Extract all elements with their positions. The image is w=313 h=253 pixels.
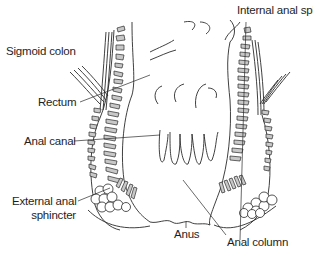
- label-sigmoid-colon: Sigmoid colon: [6, 45, 76, 58]
- right-external-sphincter: [240, 192, 278, 219]
- anorectal-anatomy-diagram: Internal anal sphincter Sigmoid colon Re…: [0, 0, 313, 253]
- right-circular-muscle: [219, 27, 273, 193]
- label-external-anal-sphincter-line2: sphincter: [12, 209, 76, 222]
- label-internal-anal-sphincter: Internal anal sphincter: [237, 4, 313, 17]
- rectal-lumen: [148, 21, 218, 225]
- leader-anal-column: [183, 180, 226, 235]
- label-anal-canal: Anal canal: [24, 135, 76, 148]
- label-anus: Anus: [174, 228, 199, 241]
- right-rectal-wall: [209, 20, 290, 230]
- label-anal-column: Anal column: [227, 236, 288, 249]
- label-external-anal-sphincter-line1: External anal: [12, 195, 76, 208]
- label-rectum: Rectum: [38, 96, 76, 109]
- leader-anal-canal: [74, 135, 160, 141]
